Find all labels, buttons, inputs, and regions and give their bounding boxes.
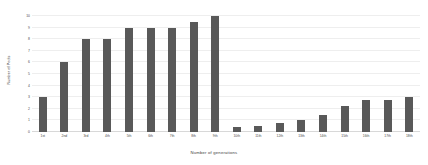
x-tick-label: 11th [255,134,261,138]
x-tick-label: 9th [213,134,218,138]
bar-slot [97,16,119,132]
bar-slot [312,16,334,132]
y-tick-label: 6 [28,60,30,64]
bar[interactable] [384,100,392,132]
x-axis-title: Number of generations [0,150,428,155]
bar[interactable] [82,39,90,132]
x-tick-label: 10th [233,134,240,138]
bar-slot [204,16,226,132]
bar[interactable] [233,127,241,132]
x-tick-label: 7th [170,134,175,138]
y-axis-tick-labels: 012345678910 [18,16,30,132]
bar-chart-figure: Number of Pools 012345678910 1st2nd3rd4t… [0,0,428,165]
bar-slot [32,16,54,132]
bar[interactable] [211,16,219,132]
bar-slot [398,16,420,132]
bar[interactable] [39,97,47,132]
bar[interactable] [103,39,111,132]
bar[interactable] [254,126,262,132]
x-tick-label: 1st [41,134,46,138]
y-axis-title: Number of Pools [4,38,14,102]
y-tick-label: 0 [28,130,30,134]
bars-layer [32,16,420,132]
bar[interactable] [319,115,327,132]
bar-slot [377,16,399,132]
bar-slot [334,16,356,132]
bar[interactable] [125,28,133,132]
bar[interactable] [147,28,155,132]
x-tick-label: 16th [363,134,370,138]
bar-slot [291,16,313,132]
bar-slot [269,16,291,132]
x-tick-label: 12th [277,134,284,138]
bar-slot [226,16,248,132]
x-tick-label: 13th [298,134,305,138]
bar-slot [118,16,140,132]
x-tick-label: 14th [320,134,327,138]
y-tick-label: 10 [26,14,30,18]
x-tick-label: 15th [341,134,348,138]
bar-slot [183,16,205,132]
bar-slot [161,16,183,132]
bar[interactable] [168,28,176,132]
y-tick-label: 8 [28,37,30,41]
x-tick-label: 6th [148,134,153,138]
y-tick-label: 9 [28,26,30,30]
bar-slot [75,16,97,132]
plot-area [32,16,420,132]
bar[interactable] [276,123,284,132]
x-tick-label: 4th [105,134,110,138]
y-tick-label: 5 [28,72,30,76]
y-tick-label: 2 [28,107,30,111]
x-tick-label: 2nd [61,134,67,138]
bar-slot [355,16,377,132]
y-tick-label: 4 [28,84,30,88]
x-axis-tick-labels: 1st2nd3rd4th5th6th7th8th9th10th11th12th1… [32,134,420,144]
bar[interactable] [362,100,370,132]
bar-slot [248,16,270,132]
y-tick-label: 1 [28,118,30,122]
y-tick-label: 3 [28,95,30,99]
bar[interactable] [297,120,305,132]
bar[interactable] [405,97,413,132]
x-tick-label: 8th [191,134,196,138]
bar-slot [140,16,162,132]
bar[interactable] [341,106,349,132]
bar[interactable] [190,22,198,132]
bar-slot [54,16,76,132]
bar[interactable] [60,62,68,132]
x-tick-label: 17th [384,134,391,138]
x-tick-label: 18th [406,134,413,138]
x-tick-label: 3rd [83,134,88,138]
x-tick-label: 5th [127,134,132,138]
y-tick-label: 7 [28,49,30,53]
